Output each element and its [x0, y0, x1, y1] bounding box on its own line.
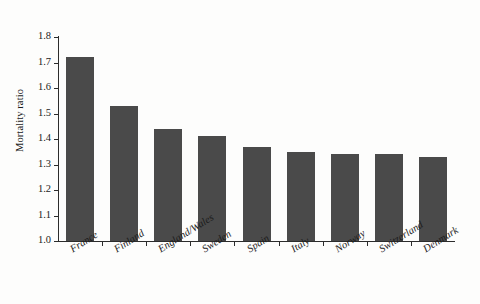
bar	[66, 57, 94, 241]
bar	[154, 129, 182, 241]
x-axis-labels: FranceFinlandEngland/WalesSwedenSpainIta…	[0, 241, 480, 304]
mortality-ratio-bar-chart: Mortality ratio 1.01.11.21.31.41.51.61.7…	[0, 0, 480, 304]
bar	[287, 152, 315, 241]
bar-series	[0, 0, 480, 241]
bar	[243, 147, 271, 241]
bar	[331, 154, 359, 241]
bar	[110, 106, 138, 241]
bar	[375, 154, 403, 241]
